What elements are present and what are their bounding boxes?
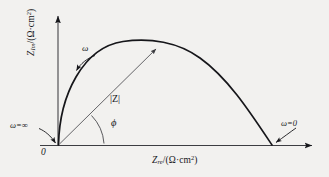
x-axis-close-paren: ): [194, 155, 197, 165]
omega-infinity-label: ω=∞: [10, 121, 28, 130]
y-axis-units: /(Ω·cm: [26, 15, 36, 43]
y-axis-exponent: 2: [25, 12, 32, 15]
phase-angle-arc: [92, 116, 105, 144]
x-axis-label: Zre/(Ω·cm2): [152, 155, 198, 166]
nyquist-plot-figure: ZIm/(Ω·cm2) Zre/(Ω·cm2) |Z| ϕ ω ω=∞ ω=0 …: [0, 0, 329, 177]
omega-zero-leader: [276, 128, 296, 143]
y-axis-symbol: Z: [26, 51, 36, 56]
omega-zero-label: ω=0: [281, 119, 297, 128]
impedance-semicircle-curve: [59, 40, 273, 145]
magnitude-vector: [60, 49, 157, 144]
x-axis-units: /(Ω·cm: [163, 155, 191, 165]
omega-direction-label: ω: [82, 44, 88, 53]
phase-angle-label: ϕ: [111, 118, 116, 129]
origin-label: 0: [41, 148, 46, 158]
y-axis-close-paren: ): [26, 9, 36, 12]
y-axis-label: ZIm/(Ω·cm2): [26, 9, 37, 56]
plot-canvas: [0, 0, 329, 177]
magnitude-label: |Z|: [110, 94, 120, 104]
omega-infinity-leader: [39, 129, 56, 144]
y-axis-subscript: Im: [29, 44, 36, 51]
